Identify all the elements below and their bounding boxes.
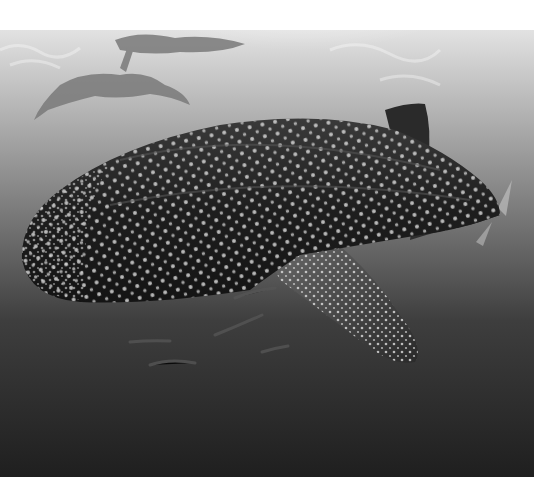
whale-shark-photo — [0, 30, 534, 477]
